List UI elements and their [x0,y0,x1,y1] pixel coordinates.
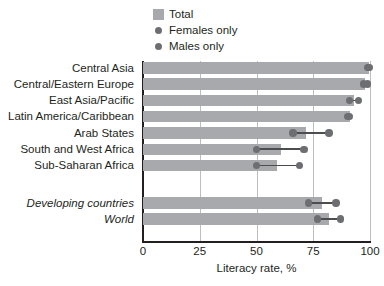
legend-item-females: Females only [147,23,237,38]
bar-total [143,95,354,107]
dot-marker-icon [147,27,169,34]
dot-males [346,113,353,120]
chart-row [143,95,370,107]
legend-label-females: Females only [169,24,237,37]
x-axis-title: Literacy rate, % [143,262,370,274]
bar-total [143,62,369,74]
bar-total [143,111,350,123]
dot-females [305,199,312,206]
gridline [370,61,371,241]
dot-males [300,146,307,153]
chart-row [143,144,370,156]
category-label: World [104,213,134,225]
dot-males [332,199,339,206]
chart-row [143,160,370,172]
bar-total [143,213,329,225]
chart-row [143,78,370,90]
category-label: Central Asia [72,62,134,74]
bar-total [143,127,306,139]
x-tick-label: 50 [250,245,263,258]
chart-row [143,62,370,74]
gender-gap-connector [257,148,305,150]
chart-legend: Total Females only Males only [147,7,237,55]
plot-area [143,61,370,241]
x-axis-line [142,241,371,243]
gender-gap-connector [293,132,329,134]
dot-marker-icon [147,43,169,50]
legend-label-males: Males only [169,40,224,53]
x-axis-ticks: 0255075100 [143,245,370,259]
x-tick-label: 75 [307,245,320,258]
dot-males [325,129,332,136]
literacy-rate-chart: Total Females only Males only Central As… [0,0,384,286]
legend-item-total: Total [147,7,237,22]
y-axis-category-labels: Central AsiaCentral/Eastern EuropeEast A… [0,61,139,241]
dot-females [289,129,296,136]
legend-item-males: Males only [147,39,237,54]
category-label: East Asia/Pacific [49,94,134,106]
dot-males [355,97,362,104]
category-label: Sub-Saharan Africa [34,159,134,171]
chart-row [143,127,370,139]
bar-total [143,78,365,90]
category-label: Central/Eastern Europe [14,78,134,90]
category-label: South and West Africa [20,143,134,155]
chart-row [143,197,370,209]
dot-females [253,146,260,153]
chart-row [143,111,370,123]
chart-row [143,213,370,225]
square-swatch-icon [147,9,169,20]
bar-total [143,197,322,209]
category-label: Developing countries [27,197,134,209]
category-label: Arab States [74,127,134,139]
dot-males [296,162,303,169]
dot-males [365,64,372,71]
dot-males [337,215,344,222]
category-label: Latin America/Caribbean [8,110,134,122]
gender-gap-connector [257,165,300,167]
x-tick-label: 25 [193,245,206,258]
x-tick-label: 100 [360,245,379,258]
x-tick-label: 0 [140,245,146,258]
legend-label-total: Total [169,8,193,21]
